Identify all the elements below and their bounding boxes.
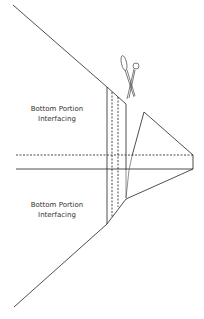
upper-label-line1: Bottom Portion bbox=[31, 105, 83, 113]
lower-diagonal-edge bbox=[14, 169, 193, 307]
flap-upper-edge bbox=[144, 112, 193, 155]
upper-label-line2: Interfacing bbox=[38, 115, 76, 123]
lower-label-line2: Interfacing bbox=[38, 211, 76, 219]
lower-label-line1: Bottom Portion bbox=[31, 201, 83, 209]
pattern-diagram: Bottom Portion Interfacing Bottom Portio… bbox=[0, 0, 204, 319]
strip-top-edge bbox=[107, 87, 126, 104]
upper-diagonal-edge bbox=[13, 5, 107, 87]
flap-left-edge bbox=[132, 112, 144, 156]
dart-line bbox=[126, 156, 132, 198]
scissors-icon bbox=[120, 55, 139, 99]
